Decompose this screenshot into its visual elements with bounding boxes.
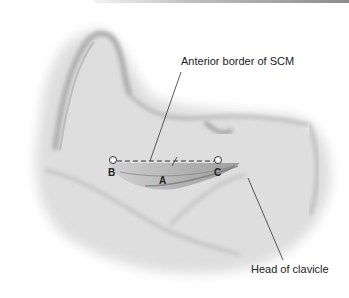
label-head-of-clavicle: Head of clavicle <box>251 263 329 275</box>
point-c-marker <box>215 157 222 164</box>
point-label-c: C <box>214 167 221 178</box>
point-b-marker <box>110 157 117 164</box>
point-label-a: A <box>159 175 166 186</box>
point-label-b: B <box>108 167 115 178</box>
label-anterior-border-scm: Anterior border of SCM <box>181 55 294 67</box>
neck-anatomy-illustration <box>0 0 349 298</box>
